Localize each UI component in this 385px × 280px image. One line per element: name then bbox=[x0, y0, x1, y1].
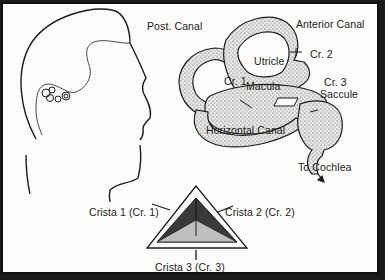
head-profile bbox=[21, 9, 151, 202]
label-horizontal-canal: Horizontal Canal bbox=[206, 124, 285, 136]
label-macula: Macula bbox=[246, 80, 280, 92]
label-anterior-canal: Anterior Canal bbox=[296, 18, 365, 30]
label-to-cochlea: To Cochlea bbox=[298, 161, 352, 173]
crista-pyramid bbox=[147, 186, 247, 260]
label-cr2: Cr. 2 bbox=[310, 48, 333, 60]
inner-ear-small-icon bbox=[42, 87, 70, 102]
labyrinth-drawing bbox=[179, 17, 342, 182]
label-utricle: Utricle bbox=[254, 55, 284, 67]
diagram-artwork bbox=[0, 0, 385, 280]
label-cr3: Cr. 3 bbox=[324, 76, 347, 88]
label-crista-2: Crista 2 (Cr. 2) bbox=[225, 206, 295, 218]
label-crista-1: Crista 1 (Cr. 1) bbox=[89, 206, 159, 218]
label-post-canal: Post. Canal bbox=[147, 20, 202, 32]
label-saccule: Saccule bbox=[320, 88, 358, 100]
label-cr1: Cr. 1 bbox=[224, 75, 247, 87]
label-crista-3: Crista 3 (Cr. 3) bbox=[155, 261, 225, 273]
